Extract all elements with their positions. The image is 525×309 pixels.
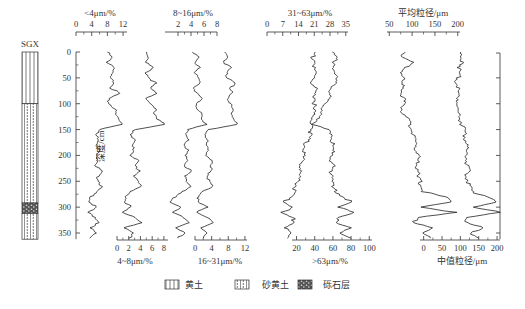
- legend: 黄土 砂黄土 砾石层: [165, 279, 350, 290]
- x-tick-label: 0: [193, 243, 197, 253]
- x-tick-label: 8: [226, 243, 230, 253]
- x-tick-label: 100: [454, 243, 467, 253]
- x-tick-label: 7: [281, 19, 285, 29]
- section-label: SGX: [21, 39, 40, 49]
- x-tick-label: 0: [265, 19, 269, 29]
- series-title: 31~63μm/%: [288, 8, 333, 18]
- series-title: 8~16μm/%: [173, 8, 214, 18]
- chart-canvas: SGX 050100150200250300350 深度/cm 04812<4μ…: [0, 0, 525, 309]
- series-curve: [170, 52, 207, 238]
- x-tick-label: 6: [202, 19, 206, 29]
- series-title: 平均粒径/μm: [398, 7, 448, 18]
- x-tick-label: 0: [115, 243, 119, 253]
- depth-tick-label: 150: [58, 125, 71, 135]
- x-tick-label: 150: [472, 243, 485, 253]
- legend-label-sandy-loess: 砂黄土: [262, 279, 289, 290]
- x-tick-label: 4: [210, 243, 215, 253]
- x-tick-label: 4: [90, 19, 95, 29]
- x-tick-label: 12: [241, 243, 250, 253]
- grain-size-panels: 04812<4μm/%024684~8μm/%24688~16μm/%04812…: [74, 7, 504, 266]
- depth-tick-label: 0: [67, 47, 71, 57]
- x-tick-label: 50: [385, 19, 394, 29]
- legend-swatch-sandy-loess: [235, 280, 249, 289]
- x-tick-label: 0: [422, 243, 426, 253]
- x-tick-label: 60: [329, 243, 338, 253]
- x-tick-label: 2: [127, 243, 131, 253]
- series-title: 16~31μm/%: [198, 256, 243, 266]
- series-curve: [455, 52, 501, 238]
- lithology-layer-loess: [22, 52, 38, 104]
- x-tick-label: 8: [215, 19, 219, 29]
- series-title: 4~8μm/%: [117, 256, 153, 266]
- lithology-layer-gravel: [22, 203, 38, 213]
- x-tick-label: 21: [310, 19, 319, 29]
- x-tick-label: 100: [406, 19, 419, 29]
- series-curve: [400, 52, 457, 238]
- x-tick-label: 14: [294, 19, 303, 29]
- x-tick-label: 12: [119, 19, 128, 29]
- depth-tick-label: 100: [58, 99, 71, 109]
- x-tick-label: 4: [138, 243, 143, 253]
- depth-axis: 050100150200250300350: [58, 47, 80, 239]
- lithology-layer-sandy-loess: [22, 104, 38, 203]
- grain-size-figure: SGX 050100150200250300350 深度/cm 04812<4μ…: [0, 0, 525, 309]
- x-tick-label: 200: [451, 19, 464, 29]
- x-tick-label: 20: [292, 243, 301, 253]
- depth-tick-label: 200: [58, 150, 71, 160]
- series-1: 024684~8μm/%: [115, 52, 168, 266]
- x-tick-label: 6: [150, 243, 154, 253]
- depth-tick-label: 250: [58, 176, 71, 186]
- depth-tick-label: 350: [58, 228, 71, 238]
- x-tick-label: 40: [310, 243, 319, 253]
- series-curve: [281, 52, 338, 238]
- series-title: >63μm/%: [312, 256, 348, 266]
- x-tick-label: 50: [438, 243, 447, 253]
- legend-label-loess: 黄土: [185, 279, 203, 290]
- legend-swatch-gravel: [298, 280, 312, 289]
- x-tick-label: 2: [176, 19, 180, 29]
- x-tick-label: 4: [189, 19, 194, 29]
- x-tick-label: 35: [342, 19, 351, 29]
- legend-label-gravel: 砾石层: [323, 279, 350, 290]
- series-2: 24688~16μm/%: [165, 8, 219, 238]
- series-4: 071421283531~63μm/%: [265, 8, 350, 238]
- lithology-layer-sandy-loess: [22, 213, 38, 239]
- series-curve: [122, 52, 164, 238]
- series-3: 0481216~31μm/%: [193, 52, 249, 266]
- legend-swatch-loess: [165, 280, 179, 289]
- series-0: 04812<4μm/%: [74, 8, 127, 238]
- series-title: 中值粒径/μm: [437, 255, 487, 266]
- series-curve: [310, 52, 354, 238]
- lithology-column: [22, 52, 38, 239]
- x-tick-label: 28: [326, 19, 335, 29]
- depth-tick-label: 50: [63, 73, 72, 83]
- x-tick-label: 8: [162, 243, 166, 253]
- x-tick-label: 0: [74, 19, 78, 29]
- series-curve: [197, 52, 238, 238]
- series-title: <4μm/%: [84, 8, 116, 18]
- depth-tick-label: 300: [58, 202, 71, 212]
- x-tick-label: 150: [429, 19, 442, 29]
- x-tick-label: 100: [363, 243, 376, 253]
- x-tick-label: 80: [347, 243, 356, 253]
- series-6: 50100150200平均粒径/μm: [385, 7, 464, 238]
- series-7: 050100150200中值粒径/μm: [420, 52, 503, 266]
- x-tick-label: 8: [105, 19, 109, 29]
- x-tick-label: 200: [491, 243, 504, 253]
